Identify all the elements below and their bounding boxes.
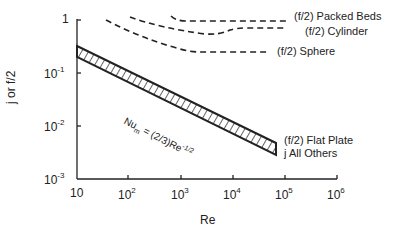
y-tick-0.01: 10-2 — [44, 118, 64, 134]
x-tick-1e4: 104 — [223, 186, 241, 202]
x-tick-10: 10 — [70, 186, 83, 200]
y-tick-1: 1 — [62, 12, 69, 26]
sphere-curve — [106, 20, 267, 52]
cylinder-curve — [130, 17, 287, 34]
x-tick-1e5: 105 — [275, 186, 293, 202]
y-tick-0.001: 10-3 — [44, 171, 64, 187]
cylinder-label: (f/2) Cylinder — [305, 25, 368, 37]
x-tick-100: 102 — [118, 186, 136, 202]
x-tick-1e6: 106 — [327, 186, 345, 202]
all-others-label: j All Others — [284, 147, 337, 159]
packed-beds-label: (f/2) Packed Beds — [294, 10, 381, 22]
y-axis-label: j or f/2 — [4, 71, 18, 104]
sphere-label: (f/2) Sphere — [277, 45, 335, 57]
flat-plate-label: (f/2) Flat Plate — [284, 134, 353, 146]
packed-beds-curve — [171, 16, 287, 21]
y-tick-0.1: 10-1 — [44, 65, 64, 81]
x-axis-label: Re — [200, 213, 215, 227]
x-tick-1e3: 103 — [171, 186, 189, 202]
